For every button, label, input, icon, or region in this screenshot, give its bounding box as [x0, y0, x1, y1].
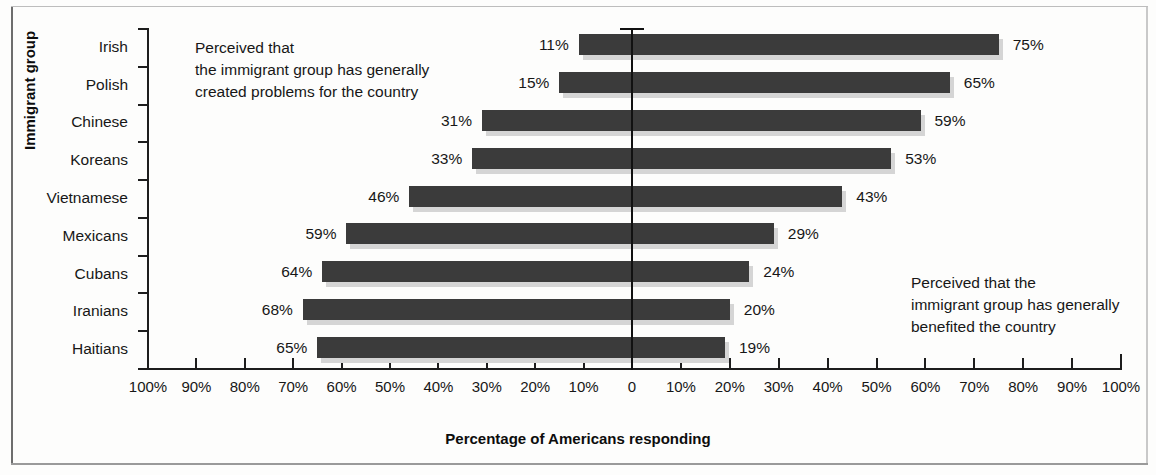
x-axis-tick-label: 40% — [423, 378, 453, 395]
y-axis-tick-labels: IrishPolishChineseKoreansVietnameseMexic… — [0, 28, 137, 368]
x-axis-tick-label: 80% — [230, 378, 260, 395]
x-axis-tick — [292, 358, 294, 369]
y-axis-tick — [138, 141, 149, 143]
x-axis-tick-labels: 100%90%80%70%60%50%40%30%20%10%010%20%30… — [0, 378, 1156, 402]
x-axis-tick-label: 40% — [813, 378, 843, 395]
x-axis-tick-label: 30% — [472, 378, 502, 395]
x-axis-tick — [1022, 358, 1024, 369]
bar-created-problems — [409, 186, 632, 207]
x-axis-tick — [534, 358, 536, 369]
x-axis-tick-label: 20% — [715, 378, 745, 395]
x-axis-tick-label: 10% — [569, 378, 599, 395]
x-axis-tick-label: 0 — [628, 378, 636, 395]
bar-benefited-country — [632, 186, 842, 207]
bar-created-problems — [559, 72, 632, 93]
bar-value-label-right: 53% — [905, 148, 936, 169]
x-axis-tick — [437, 358, 439, 369]
figure-container: Immigrant group IrishPolishChineseKorean… — [0, 0, 1156, 475]
x-axis-tick — [778, 358, 780, 369]
y-axis-line — [147, 28, 149, 368]
annotation-left: Perceived that the immigrant group has g… — [195, 37, 429, 103]
bar-value-label-left: 65% — [251, 337, 307, 358]
y-axis-tick — [138, 292, 149, 294]
y-axis-category-label: Vietnamese — [46, 187, 128, 208]
bar-created-problems — [303, 299, 632, 320]
y-axis-category-label: Irish — [99, 36, 128, 57]
x-axis-tick-label: 80% — [1008, 378, 1038, 395]
x-axis-tick — [729, 358, 731, 369]
cropped-caption-above — [60, 0, 960, 6]
bar-benefited-country — [632, 223, 774, 244]
bar-created-problems — [482, 110, 632, 131]
y-axis-category-label: Iranians — [73, 300, 128, 321]
y-axis-tick — [138, 28, 149, 30]
bar-value-label-right: 75% — [1013, 34, 1044, 55]
bar-value-label-right: 19% — [739, 337, 770, 358]
bar-benefited-country — [632, 34, 999, 55]
bar-benefited-country — [632, 148, 891, 169]
x-axis-tick-label: 20% — [520, 378, 550, 395]
y-axis-tick — [138, 330, 149, 332]
bar-value-label-left: 59% — [280, 223, 336, 244]
x-axis-tick — [973, 358, 975, 369]
bar-value-label-right: 65% — [964, 72, 995, 93]
x-axis-tick — [876, 358, 878, 369]
x-axis-tick — [1071, 358, 1073, 369]
y-axis-tick — [138, 66, 149, 68]
y-axis-category-label: Mexicans — [63, 225, 128, 246]
x-axis-tick — [147, 354, 149, 369]
bar-value-label-right: 43% — [856, 186, 887, 207]
x-axis-tick-label: 60% — [327, 378, 357, 395]
page-rule-bottom — [11, 463, 1148, 465]
x-axis-tick-label: 50% — [375, 378, 405, 395]
x-axis-tick-label: 90% — [1057, 378, 1087, 395]
bar-created-problems — [346, 223, 632, 244]
y-axis-category-label: Polish — [86, 74, 128, 95]
bar-value-label-left: 11% — [513, 34, 569, 55]
y-axis-tick — [138, 255, 149, 257]
bar-value-label-left: 15% — [493, 72, 549, 93]
x-axis-tick-label: 10% — [666, 378, 696, 395]
x-axis-tick-label: 30% — [764, 378, 794, 395]
x-axis-tick-label: 50% — [861, 378, 891, 395]
bar-value-label-right: 59% — [935, 110, 966, 131]
bar-value-label-left: 68% — [237, 299, 293, 320]
x-axis-tick — [583, 358, 585, 369]
x-axis-tick — [924, 358, 926, 369]
x-axis-tick-label: 70% — [959, 378, 989, 395]
bar-created-problems — [472, 148, 632, 169]
bar-value-label-right: 24% — [763, 261, 794, 282]
bar-value-label-left: 64% — [256, 261, 312, 282]
x-axis-title: Percentage of Americans responding — [0, 430, 1156, 447]
bar-benefited-country — [632, 299, 730, 320]
x-axis-tick — [389, 358, 391, 369]
page-rule-top — [11, 6, 1148, 7]
x-axis-tick-label: 90% — [181, 378, 211, 395]
y-axis-tick — [138, 217, 149, 219]
zero-reference-line — [631, 30, 633, 370]
x-axis-tick — [486, 358, 488, 369]
x-axis-tick — [244, 358, 246, 369]
y-axis-tick — [138, 104, 149, 106]
x-axis-tick-label: 60% — [910, 378, 940, 395]
y-axis-category-label: Koreans — [70, 149, 128, 170]
y-axis-category-label: Cubans — [75, 263, 128, 284]
bar-value-label-right: 20% — [744, 299, 775, 320]
annotation-right: Perceived that the immigrant group has g… — [911, 272, 1120, 338]
y-axis-category-label: Haitians — [72, 338, 128, 359]
bar-value-label-left: 31% — [416, 110, 472, 131]
y-axis-category-label: Chinese — [71, 111, 128, 132]
x-axis-tick — [827, 358, 829, 369]
bar-benefited-country — [632, 110, 921, 131]
x-axis-tick — [341, 358, 343, 369]
x-axis-tick — [195, 358, 197, 369]
bar-value-label-right: 29% — [788, 223, 819, 244]
bar-value-label-left: 33% — [406, 148, 462, 169]
bar-benefited-country — [632, 337, 725, 358]
bar-created-problems — [579, 34, 632, 55]
bar-created-problems — [317, 337, 632, 358]
bar-value-label-left: 46% — [343, 186, 399, 207]
x-axis-tick-label: 100% — [1102, 378, 1140, 395]
bar-benefited-country — [632, 261, 749, 282]
x-axis-tick-label: 70% — [278, 378, 308, 395]
